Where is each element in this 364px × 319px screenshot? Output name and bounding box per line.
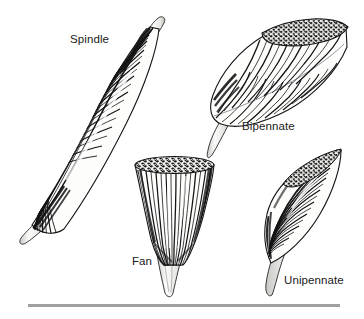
fan-cut-surface	[135, 157, 214, 174]
label-unipennate: Unipennate	[284, 274, 344, 287]
bottom-rule	[28, 304, 340, 307]
spindle-belly	[32, 27, 159, 248]
label-bipennate: Bipennate	[242, 120, 295, 133]
label-fan: Fan	[132, 255, 152, 268]
specimen-bipennate	[207, 19, 348, 158]
specimen-spindle	[20, 17, 165, 248]
muscle-types-figure: Spindle Bipennate Fan Unipennate	[0, 0, 364, 319]
fan-belly	[135, 165, 214, 266]
illustration-canvas	[0, 0, 364, 319]
label-spindle: Spindle	[70, 33, 109, 46]
specimen-fan	[135, 157, 214, 297]
